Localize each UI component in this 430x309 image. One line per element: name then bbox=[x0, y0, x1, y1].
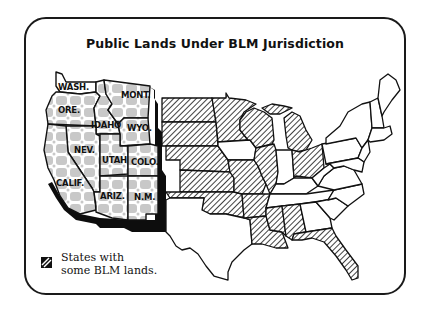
label-mont: MONT. bbox=[121, 90, 151, 100]
label-wash: WASH. bbox=[58, 82, 89, 92]
label-colo: COLO. bbox=[131, 157, 159, 167]
diagonal-hatch-icon bbox=[41, 257, 52, 268]
legend-line-2: some BLM lands. bbox=[61, 265, 157, 278]
state-ks bbox=[180, 170, 234, 192]
state-me bbox=[378, 74, 400, 116]
label-wyo: WYO. bbox=[127, 123, 152, 133]
label-ore: ORE. bbox=[58, 105, 80, 115]
label-utah: UTAH bbox=[102, 155, 127, 165]
state-mi-up bbox=[262, 104, 292, 114]
label-calif: CALIF. bbox=[56, 178, 84, 188]
state-nd bbox=[162, 98, 216, 122]
legend-label: States with some BLM lands. bbox=[61, 252, 157, 277]
state-mi bbox=[284, 112, 312, 152]
state-ma-ct-ri bbox=[368, 126, 392, 142]
state-sd bbox=[162, 122, 218, 146]
label-ariz: ARIZ. bbox=[100, 191, 125, 201]
label-idaho: IDAHO bbox=[91, 120, 121, 130]
eastern-states bbox=[162, 74, 400, 280]
state-fl bbox=[292, 228, 358, 280]
label-nev: NEV. bbox=[74, 145, 95, 155]
label-nm: N.M. bbox=[134, 192, 155, 202]
legend-line-1: States with bbox=[61, 252, 157, 265]
